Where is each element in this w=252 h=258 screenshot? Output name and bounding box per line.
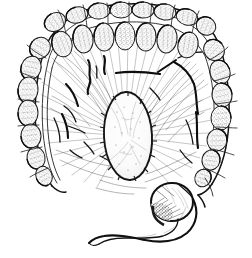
- haustra-left-3: [18, 100, 39, 127]
- haustra-right-3: [211, 106, 231, 130]
- haustra-left-4: [21, 124, 42, 149]
- haustra-top-inner-3: [115, 22, 135, 50]
- anatomical-figure-root: Large intestine (colon) anatomical engra…: [0, 0, 252, 258]
- colon-anatomy-illustration: Large intestine (colon) anatomical engra…: [0, 0, 252, 258]
